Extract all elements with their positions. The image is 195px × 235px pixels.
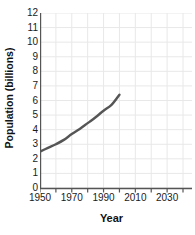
data-series <box>40 95 119 152</box>
y-axis-tick-labels: 0123456789101112 <box>14 13 38 188</box>
tick-marks <box>40 13 183 193</box>
y-tick-label: 12 <box>16 8 38 18</box>
y-tick-label: 10 <box>16 37 38 47</box>
x-tick-label: 2030 <box>150 192 184 203</box>
x-tick-label: 2010 <box>118 192 152 203</box>
y-tick-label: 11 <box>16 23 38 33</box>
chart-svg <box>40 13 195 195</box>
population-growth-chart: Population (billions) 0123456789101112 1… <box>0 0 195 235</box>
y-tick-label: 6 <box>16 96 38 106</box>
y-tick-label: 8 <box>16 66 38 76</box>
y-tick-label: 9 <box>16 52 38 62</box>
plot-area <box>40 13 183 188</box>
x-axis-title: Year <box>40 212 183 224</box>
y-tick-label: 2 <box>16 154 38 164</box>
x-axis-tick-labels: 19501970199020102030 <box>40 192 195 206</box>
y-tick-label: 3 <box>16 139 38 149</box>
x-tick-label: 1950 <box>23 192 57 203</box>
x-tick-label: 1970 <box>55 192 89 203</box>
y-tick-label: 5 <box>16 110 38 120</box>
x-tick-label: 1990 <box>87 192 121 203</box>
population-curve <box>40 95 119 152</box>
y-tick-label: 7 <box>16 81 38 91</box>
y-tick-label: 4 <box>16 125 38 135</box>
y-tick-label: 1 <box>16 168 38 178</box>
